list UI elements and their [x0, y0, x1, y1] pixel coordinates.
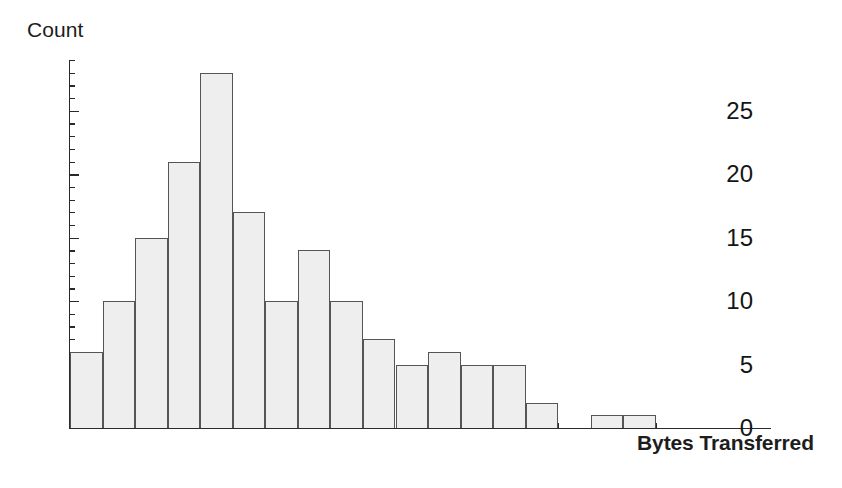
y-tick-minor: [69, 187, 75, 188]
histogram-bar: [70, 352, 103, 428]
histogram-bar: [330, 301, 363, 428]
y-tick-minor: [69, 73, 75, 74]
histogram-bar: [493, 365, 526, 428]
x-axis-title: Bytes Transferred: [637, 431, 814, 455]
y-tick-major: [69, 428, 79, 429]
y-tick-minor: [69, 263, 75, 264]
histogram-bar: [233, 212, 266, 428]
y-tick-major: [69, 174, 79, 175]
histogram-bar: [591, 415, 624, 428]
y-tick-label: 20: [726, 162, 753, 186]
histogram-bar: [623, 415, 656, 428]
y-tick-minor: [69, 326, 75, 327]
y-tick-minor: [69, 136, 75, 137]
histogram-bar: [298, 250, 331, 428]
histogram-chart: Count Bytes Transferred 0510152025 02000…: [0, 0, 842, 488]
y-tick-label: 0: [740, 416, 753, 440]
plot-area: 0510152025 02000400060008000: [70, 60, 835, 428]
y-tick-minor: [69, 276, 75, 277]
y-tick-minor: [69, 123, 75, 124]
y-tick-minor: [69, 162, 75, 163]
histogram-bar: [168, 162, 201, 428]
y-tick-minor: [69, 200, 75, 201]
histogram-bar: [200, 73, 233, 428]
y-tick-minor: [69, 85, 75, 86]
y-tick-minor: [69, 288, 75, 289]
y-tick-minor: [69, 98, 75, 99]
y-tick-minor: [69, 212, 75, 213]
histogram-bar: [428, 352, 461, 428]
x-tick-minor: [656, 423, 657, 429]
histogram-bar: [526, 403, 559, 428]
y-tick-minor: [69, 225, 75, 226]
y-tick-minor: [69, 339, 75, 340]
histogram-bar: [265, 301, 298, 428]
y-tick-minor: [69, 149, 75, 150]
y-tick-major: [69, 238, 79, 239]
y-tick-label: 15: [726, 226, 753, 250]
x-axis-line: [69, 428, 771, 429]
histogram-bar: [363, 339, 396, 428]
y-axis-title: Count: [27, 18, 84, 42]
histogram-bar: [461, 365, 494, 428]
y-tick-minor: [69, 60, 75, 61]
x-tick-minor: [558, 423, 559, 429]
y-tick-minor: [69, 314, 75, 315]
y-tick-label: 5: [740, 353, 753, 377]
y-tick-label: 25: [726, 99, 753, 123]
histogram-bar: [396, 365, 429, 428]
y-tick-minor: [69, 250, 75, 251]
y-tick-major: [69, 111, 79, 112]
histogram-bar: [135, 238, 168, 428]
y-tick-label: 10: [726, 289, 753, 313]
y-tick-major: [69, 301, 79, 302]
histogram-bar: [103, 301, 136, 428]
